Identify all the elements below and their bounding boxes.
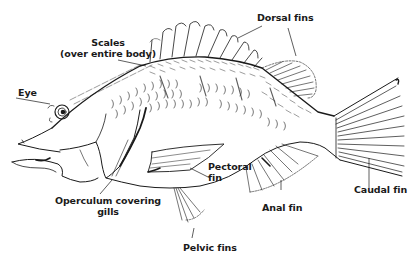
label-dorsal-fins: Dorsal fins [257, 13, 313, 24]
dorsal-leader-spiny [238, 26, 262, 38]
label-anal-fin: Anal fin [262, 203, 302, 214]
soft-dorsal-fin [262, 61, 316, 98]
dorsal-outline [52, 57, 334, 128]
label-eye: Eye [18, 88, 37, 99]
pelvic-leader [192, 228, 194, 238]
label-caudal-fin: Caudal fin [354, 185, 407, 196]
dorsal-leader-soft [288, 28, 296, 56]
scale-texture [70, 60, 311, 117]
scales-leader [118, 60, 146, 66]
eye-drawing [48, 105, 69, 122]
lower-jaw [12, 159, 98, 182]
pectoral-leader [190, 168, 210, 178]
label-scales: Scales (over entire body) [60, 38, 156, 59]
fish-anatomy-diagram: Dorsal fins Scales (over entire body) Ey… [0, 0, 416, 262]
label-pectoral-fin-line2: fin [208, 173, 252, 184]
label-pelvic-fins: Pelvic fins [183, 243, 237, 254]
label-operculum: Operculum covering gills [52, 196, 164, 217]
label-pectoral-fin-line1: Pectoral [208, 162, 252, 173]
label-operculum-line2: gills [52, 207, 164, 218]
label-scales-line2: (over entire body) [60, 49, 156, 60]
pelvic-fin [174, 188, 204, 222]
operculum [60, 110, 140, 178]
eye-leader [16, 98, 50, 104]
snout [18, 128, 60, 152]
label-pectoral-fin: Pectoral fin [208, 162, 252, 183]
anal-fin [246, 144, 318, 192]
label-scales-line1: Scales [60, 38, 156, 49]
operculum-leader [100, 180, 112, 194]
label-operculum-line1: Operculum covering [52, 196, 164, 207]
